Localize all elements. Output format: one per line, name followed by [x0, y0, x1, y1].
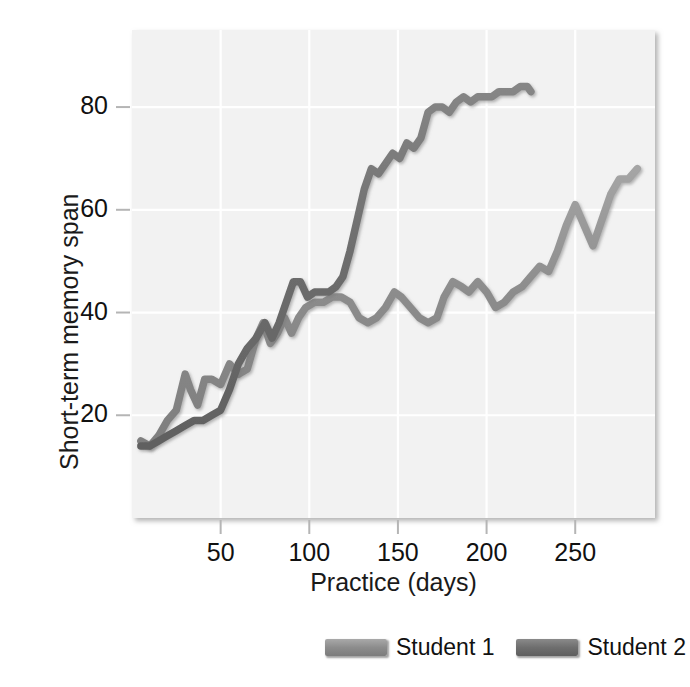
x-tick-label: 100	[274, 538, 344, 567]
line-chart-figure: Short-term memory span Practice (days) 2…	[0, 0, 690, 687]
y-tick-label: 20	[48, 399, 108, 428]
x-tick-label: 250	[540, 538, 610, 567]
x-tick-label: 50	[186, 538, 256, 567]
legend-label-student-2: Student 2	[587, 634, 685, 661]
chart-legend: Student 1 Student 2	[325, 634, 690, 660]
x-tick-label: 200	[452, 538, 522, 567]
y-tick-label: 40	[48, 297, 108, 326]
y-tick-label: 60	[48, 194, 108, 223]
legend-swatch-student-1	[325, 639, 387, 656]
plot-background	[132, 30, 655, 518]
x-tick-label: 150	[363, 538, 433, 567]
y-tick-label: 80	[48, 91, 108, 120]
plot-panel	[132, 30, 655, 518]
legend-swatch-student-2	[516, 639, 578, 656]
legend-entry-student-1[interactable]: Student 1	[325, 634, 516, 661]
legend-entry-student-2[interactable]: Student 2	[516, 634, 690, 661]
legend-label-student-1: Student 1	[396, 634, 494, 661]
x-axis-title: Practice (days)	[132, 568, 655, 597]
